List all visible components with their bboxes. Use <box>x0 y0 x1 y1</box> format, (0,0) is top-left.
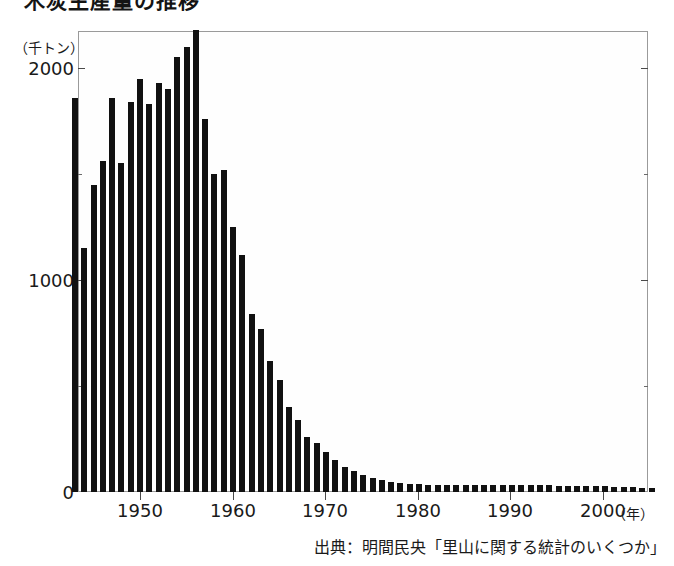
bar-2003 <box>630 487 636 492</box>
bar-1974 <box>360 475 366 492</box>
bar-1953 <box>165 89 171 492</box>
bar-1949 <box>128 102 134 492</box>
bar-1957 <box>202 119 208 492</box>
bar-1994 <box>546 485 552 492</box>
bar-1954 <box>174 57 180 492</box>
bar-1986 <box>472 485 478 492</box>
bar-1965 <box>277 380 283 492</box>
bar-1983 <box>444 485 450 492</box>
bar-1956 <box>193 30 199 492</box>
bar-1999 <box>593 486 599 492</box>
bar-1944 <box>81 248 87 492</box>
bar-1991 <box>518 485 524 492</box>
bar-1970 <box>323 452 329 492</box>
bar-1964 <box>267 361 273 492</box>
bar-1961 <box>239 255 245 492</box>
bar-series <box>0 0 674 566</box>
bar-1982 <box>435 485 441 492</box>
bar-1972 <box>342 467 348 492</box>
bar-1973 <box>351 471 357 492</box>
bar-1996 <box>565 486 571 492</box>
source-note: 出典：明間民央「里山に関する統計のいくつか」 <box>0 534 666 558</box>
bar-1997 <box>574 486 580 492</box>
bar-1951 <box>146 104 152 492</box>
bar-2002 <box>621 487 627 492</box>
bar-1990 <box>509 485 515 492</box>
bar-2001 <box>611 487 617 492</box>
bar-2000 <box>602 486 608 492</box>
bar-2004 <box>639 488 645 492</box>
bar-1958 <box>211 174 217 492</box>
bar-1984 <box>453 485 459 492</box>
bar-1943 <box>72 98 78 492</box>
bar-1959 <box>221 170 227 492</box>
bar-1971 <box>332 460 338 492</box>
bar-1976 <box>379 480 385 492</box>
bar-1967 <box>295 420 301 492</box>
bar-1948 <box>118 163 124 492</box>
bar-1977 <box>388 482 394 492</box>
bar-1978 <box>397 483 403 492</box>
bar-1946 <box>100 161 106 492</box>
bar-1985 <box>463 485 469 492</box>
bar-1968 <box>304 437 310 492</box>
bar-1981 <box>425 485 431 492</box>
bar-2005 <box>649 488 655 492</box>
bar-1950 <box>137 79 143 492</box>
bar-1962 <box>249 314 255 492</box>
bar-1998 <box>583 486 589 492</box>
bar-1995 <box>556 486 562 492</box>
bar-1955 <box>184 47 190 492</box>
bar-1963 <box>258 329 264 492</box>
bar-1980 <box>416 484 422 492</box>
bar-1979 <box>407 484 413 492</box>
bar-1975 <box>370 478 376 492</box>
bar-1966 <box>286 407 292 492</box>
bar-1945 <box>91 185 97 492</box>
bar-1993 <box>537 485 543 492</box>
bar-1988 <box>490 485 496 492</box>
bar-1947 <box>109 98 115 492</box>
bar-1987 <box>481 485 487 492</box>
bar-1960 <box>230 227 236 492</box>
bar-1992 <box>528 485 534 492</box>
bar-1989 <box>500 485 506 492</box>
bar-1969 <box>314 443 320 492</box>
bar-1952 <box>156 83 162 492</box>
chart-figure: 木炭生産量の推移 （千トン） 0 1000 2000 1950 1960 197… <box>0 0 674 566</box>
